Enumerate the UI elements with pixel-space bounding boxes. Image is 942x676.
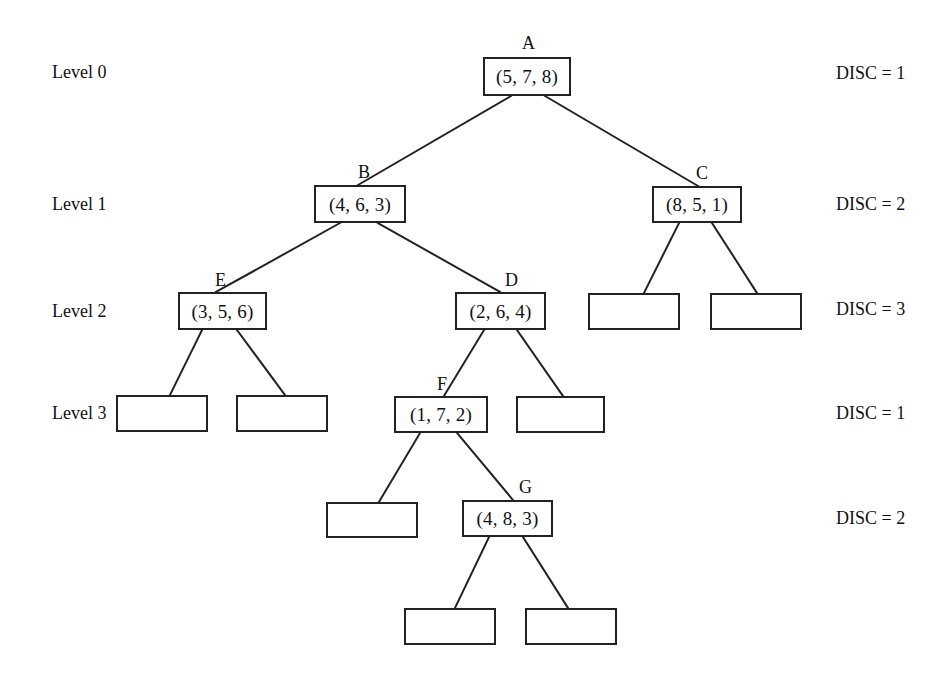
tree-node-empty-c2 [710, 293, 802, 330]
tree-node-empty-e1 [116, 395, 208, 432]
tree-edge-d-d2 [517, 330, 563, 396]
tree-edge-b-e [216, 223, 340, 292]
tree-node-name-c: C [696, 164, 708, 182]
level-label-2: Level 2 [52, 302, 106, 320]
tree-edge-d-f [444, 330, 484, 396]
tree-edge-g-g1 [455, 537, 489, 608]
tree-edge-f-f1 [379, 433, 420, 502]
tree-node-empty-f1 [326, 502, 418, 538]
tree-edge-f-g [457, 433, 513, 500]
tree-node-c: (8, 5, 1) [652, 186, 742, 223]
tree-node-name-b: B [358, 163, 370, 181]
tree-edge-c-c1 [644, 223, 679, 293]
disc-label-4: DISC = 2 [836, 509, 905, 527]
disc-label-0: DISC = 1 [836, 64, 905, 82]
tree-node-b: (4, 6, 3) [314, 185, 406, 223]
tree-node-e: (3, 5, 6) [178, 292, 267, 330]
tree-node-name-g: G [519, 478, 532, 496]
disc-label-3: DISC = 1 [836, 404, 905, 422]
tree-node-name-a: A [522, 34, 535, 52]
tree-node-empty-g2 [525, 608, 617, 645]
tree-node-empty-c1 [588, 293, 680, 330]
tree-node-f: (1, 7, 2) [394, 396, 488, 433]
tree-edge-a-b [358, 96, 511, 185]
tree-node-name-d: D [505, 271, 518, 289]
level-label-0: Level 0 [52, 63, 106, 81]
tree-edge-e-e2 [237, 330, 285, 395]
tree-edge-b-d [378, 223, 500, 292]
disc-label-1: DISC = 2 [836, 195, 905, 213]
tree-node-d: (2, 6, 4) [455, 292, 546, 330]
tree-edge-e-e1 [170, 330, 202, 395]
disc-label-2: DISC = 3 [836, 300, 905, 318]
tree-edge-c-c2 [712, 223, 757, 293]
tree-node-a: (5, 7, 8) [483, 57, 571, 96]
edge-layer [0, 0, 942, 676]
tree-node-empty-g1 [404, 608, 496, 645]
tree-edge-g-g2 [523, 537, 568, 608]
level-label-1: Level 1 [52, 195, 106, 213]
tree-node-name-f: F [437, 375, 447, 393]
tree-edge-a-c [545, 96, 698, 186]
tree-node-empty-e2 [236, 395, 328, 432]
tree-diagram: (5, 7, 8)(4, 6, 3)(8, 5, 1)(3, 5, 6)(2, … [0, 0, 942, 676]
tree-node-empty-d2 [516, 396, 605, 433]
tree-node-g: (4, 8, 3) [462, 500, 553, 537]
level-label-3: Level 3 [52, 404, 106, 422]
tree-node-name-e: E [215, 271, 226, 289]
